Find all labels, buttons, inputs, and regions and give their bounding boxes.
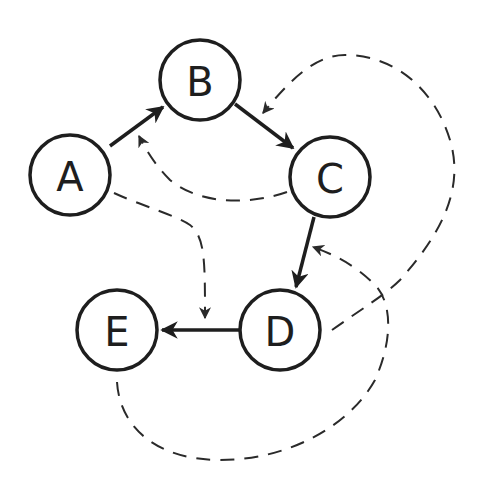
dashed-edge-c-to-ab (139, 136, 287, 201)
graph-diagram: A B C D E (0, 0, 480, 484)
node-e-label: E (104, 309, 129, 355)
node-d-label: D (265, 309, 296, 355)
node-e: E (77, 290, 157, 370)
edge-c-to-d (296, 217, 314, 287)
edge-a-to-b (110, 107, 163, 146)
dashed-edges (114, 55, 454, 460)
node-c-label: C (316, 156, 344, 202)
node-d: D (240, 290, 320, 370)
node-b: B (160, 40, 240, 120)
node-b-label: B (186, 59, 213, 105)
node-a-label: A (56, 154, 84, 200)
node-a: A (30, 135, 110, 215)
node-c: C (290, 137, 370, 217)
